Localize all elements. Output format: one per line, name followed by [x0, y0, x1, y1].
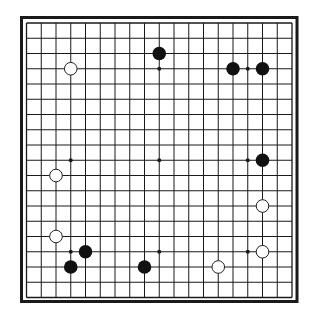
- black-stone: [79, 245, 93, 259]
- star-point: [157, 158, 161, 162]
- star-point: [69, 158, 73, 162]
- star-point: [157, 250, 161, 254]
- white-stone: [50, 230, 63, 243]
- black-stone: [256, 153, 270, 167]
- star-point: [157, 67, 161, 71]
- white-stone: [50, 169, 63, 182]
- black-stone: [256, 62, 270, 76]
- star-point: [246, 67, 250, 71]
- white-stone: [64, 62, 77, 75]
- go-board: [0, 0, 316, 322]
- black-stone: [138, 260, 152, 274]
- black-stone: [226, 62, 240, 76]
- star-point: [246, 250, 250, 254]
- star-point: [69, 250, 73, 254]
- white-stone: [256, 200, 269, 213]
- white-stone: [256, 245, 269, 258]
- star-point: [246, 158, 250, 162]
- white-stone: [212, 261, 225, 274]
- go-board-diagram: [0, 0, 316, 322]
- black-stone: [64, 260, 78, 274]
- black-stone: [152, 47, 166, 61]
